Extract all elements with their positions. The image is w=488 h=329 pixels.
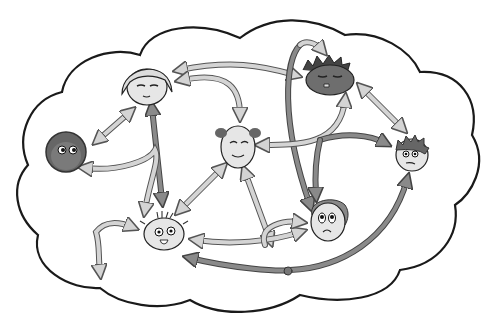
face-curly-left	[46, 132, 86, 172]
thought-cloud-illustration	[0, 0, 488, 329]
